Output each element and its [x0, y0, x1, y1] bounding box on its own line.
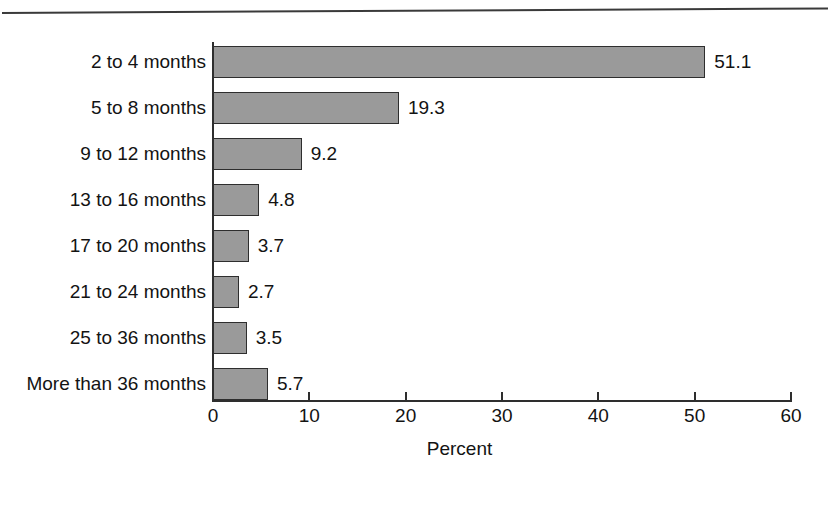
- category-label: 5 to 8 months: [0, 92, 206, 124]
- category-label: 13 to 16 months: [0, 184, 206, 216]
- x-axis-tick: [501, 392, 503, 401]
- x-axis-tick-label: 10: [279, 405, 339, 427]
- x-axis-tick-label: 20: [376, 405, 436, 427]
- x-axis-tick-label: 40: [568, 405, 628, 427]
- bar-value-label: 4.8: [268, 184, 294, 216]
- bar: [213, 230, 249, 262]
- x-axis-tick-label: 30: [472, 405, 532, 427]
- bar-value-label: 51.1: [714, 46, 751, 78]
- bar-value-label: 9.2: [311, 138, 337, 170]
- x-axis-tick: [597, 392, 599, 401]
- bar: [213, 92, 399, 124]
- x-axis-tick-label: 50: [665, 405, 725, 427]
- x-axis-title: Percent: [0, 438, 829, 460]
- bar: [213, 46, 705, 78]
- category-label: 17 to 20 months: [0, 230, 206, 262]
- bar-value-label: 3.7: [258, 230, 284, 262]
- bar-value-label: 19.3: [408, 92, 445, 124]
- bar: [213, 184, 259, 216]
- bar-chart: 2 to 4 months 5 to 8 months 9 to 12 mont…: [0, 24, 829, 506]
- category-label: 9 to 12 months: [0, 138, 206, 170]
- category-label: More than 36 months: [0, 368, 206, 400]
- y-axis-line: [212, 42, 214, 402]
- bar-value-label: 5.7: [277, 368, 303, 400]
- x-axis-tick: [212, 392, 214, 401]
- x-axis-tick: [308, 392, 310, 401]
- x-axis-tick: [694, 392, 696, 401]
- x-axis-tick: [405, 392, 407, 401]
- x-axis-tick: [790, 392, 792, 401]
- category-label: 2 to 4 months: [0, 46, 206, 78]
- header-divider-rule: [2, 7, 828, 14]
- x-axis-tick-label: 0: [183, 405, 243, 427]
- category-label: 21 to 24 months: [0, 276, 206, 308]
- category-label: 25 to 36 months: [0, 322, 206, 354]
- x-axis-tick-label: 60: [761, 405, 821, 427]
- bar: [213, 368, 268, 400]
- bar: [213, 322, 247, 354]
- bar-value-label: 3.5: [256, 322, 282, 354]
- bar: [213, 276, 239, 308]
- bar: [213, 138, 302, 170]
- bar-value-label: 2.7: [248, 276, 274, 308]
